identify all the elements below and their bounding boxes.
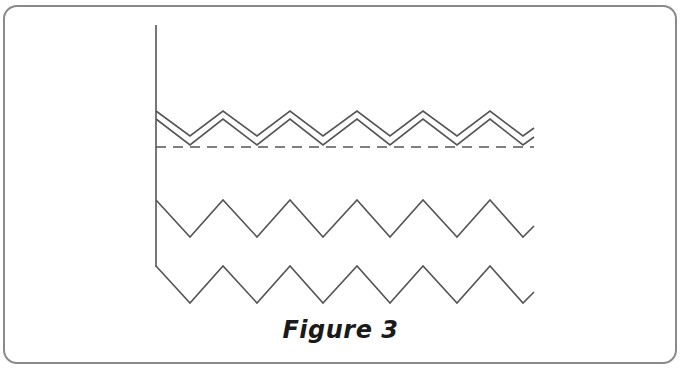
double-zigzag-lower-line <box>156 119 534 145</box>
figure-caption: Figure 3 <box>0 316 681 344</box>
zigzag-middle-line <box>156 200 534 237</box>
zigzag-bottom-line <box>156 266 534 303</box>
double-zigzag-upper-line <box>156 111 534 136</box>
